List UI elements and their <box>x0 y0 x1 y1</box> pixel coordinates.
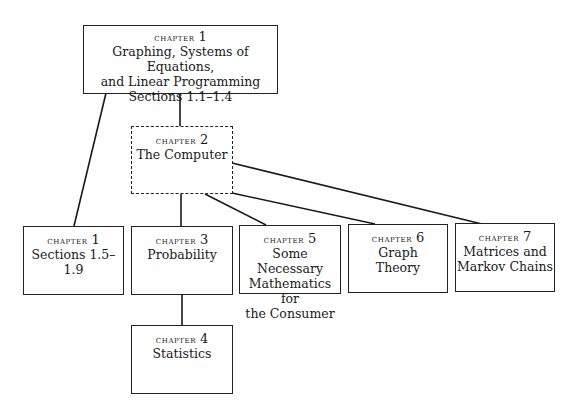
node-chapter-2-computer: chapter 2 The Computer <box>131 126 233 194</box>
node-chapter-7-markov: chapter 7 Matrices and Markov Chains <box>455 223 555 292</box>
node-chapter-1-graphing: chapter 1 Graphing, Systems of Equations… <box>83 25 278 94</box>
node-title-line: The Computer <box>132 147 232 162</box>
node-chapter-6-graph-theory: chapter 6 Graph Theory <box>348 224 448 293</box>
node-title-line: Graph <box>349 245 447 260</box>
node-title-line: Graphing, Systems of Equations, <box>84 44 277 74</box>
edge-ch1a-ch1b <box>74 93 106 226</box>
chapter-label: chapter 4 <box>132 332 232 346</box>
node-chapter-5-consumer: chapter 5 Some Necessary Mathematics for… <box>239 225 341 294</box>
node-title-line: the Consumer <box>240 306 340 321</box>
node-title-line: Matrices and <box>456 244 554 259</box>
chapter-label: chapter 1 <box>84 30 277 44</box>
node-title-line: Markov Chains <box>456 259 554 274</box>
node-title-line: and Linear Programming <box>84 74 277 89</box>
chapter-label: chapter 7 <box>456 230 554 244</box>
node-title-line: Theory <box>349 260 447 275</box>
node-title-line: Statistics <box>132 346 232 361</box>
node-title-line: Mathematics for <box>240 276 340 306</box>
node-title-line: Sections 1.5–1.9 <box>24 247 123 277</box>
node-chapter-4-statistics: chapter 4 Statistics <box>131 325 233 394</box>
node-chapter-3-probability: chapter 3 Probability <box>131 226 233 295</box>
edge-ch2-ch7 <box>232 163 482 224</box>
node-title-line: Some Necessary <box>240 246 340 276</box>
chapter-label: chapter 3 <box>132 233 232 247</box>
chapter-label: chapter 2 <box>132 133 232 147</box>
chapter-label: chapter 5 <box>240 232 340 246</box>
node-title-line: Probability <box>132 247 232 262</box>
node-chapter-1-sections: chapter 1 Sections 1.5–1.9 <box>23 226 124 295</box>
node-title-line: Sections 1.1–1.4 <box>84 89 277 104</box>
chapter-label: chapter 6 <box>349 231 447 245</box>
chapter-label: chapter 1 <box>24 233 123 247</box>
